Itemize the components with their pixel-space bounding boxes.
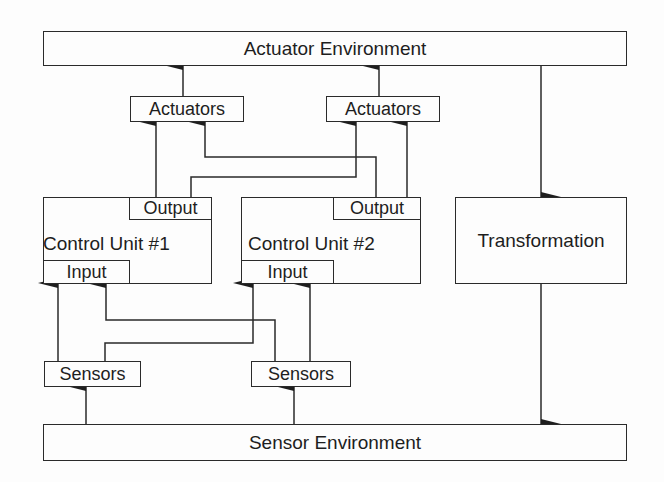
control-unit-2-output-label: Output	[350, 198, 404, 219]
actuators-label-1: Actuators	[149, 99, 225, 120]
control-unit-2-input-port: Input	[241, 260, 334, 284]
control-unit-2-input-label: Input	[267, 262, 307, 283]
transformation-box: Transformation	[455, 197, 627, 284]
sensors-box-1: Sensors	[44, 361, 141, 387]
actuator-environment-label: Actuator Environment	[244, 38, 427, 60]
transformation-label: Transformation	[477, 230, 604, 252]
control-unit-2-output-port: Output	[333, 197, 421, 220]
edge-sensors1-to-cu2	[105, 283, 253, 361]
control-unit-1-output-port: Output	[129, 197, 212, 220]
edge-cu1-to-actuators2	[191, 121, 356, 197]
actuators-label-2: Actuators	[345, 99, 421, 120]
sensors-label-1: Sensors	[59, 364, 125, 385]
control-unit-1-input-port: Input	[43, 260, 130, 284]
sensors-label-2: Sensors	[268, 364, 334, 385]
control-unit-2-label: Control Unit #2	[248, 233, 375, 255]
sensor-environment-box: Sensor Environment	[43, 424, 627, 461]
control-unit-1-output-label: Output	[143, 198, 197, 219]
actuator-environment-box: Actuator Environment	[43, 31, 627, 66]
sensors-box-2: Sensors	[251, 361, 351, 387]
actuators-box-2: Actuators	[326, 96, 440, 122]
sensor-environment-label: Sensor Environment	[249, 432, 421, 454]
control-unit-1-label: Control Unit #1	[43, 233, 170, 255]
edge-cu2-to-actuators1	[205, 121, 376, 197]
control-unit-1-input-label: Input	[66, 262, 106, 283]
edge-sensors2-to-cu1	[106, 283, 275, 361]
actuators-box-1: Actuators	[130, 96, 244, 122]
